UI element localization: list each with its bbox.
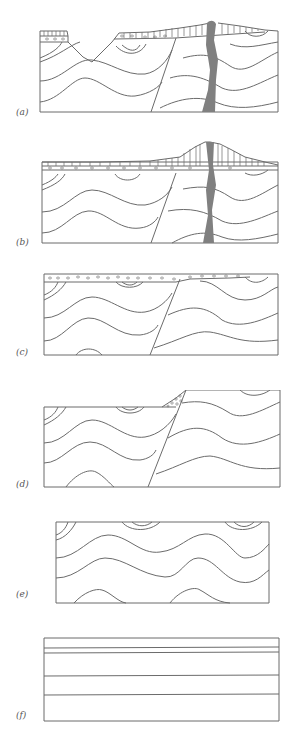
panel-a: (a) <box>0 0 296 130</box>
panel-label-c: (c) <box>16 347 28 357</box>
panel-b: (b) <box>0 135 296 265</box>
cross-section-f <box>0 625 296 744</box>
cross-section-b <box>0 135 296 265</box>
cross-section-e <box>0 510 296 625</box>
dike <box>203 142 216 243</box>
panel-label-b: (b) <box>16 237 29 247</box>
cross-section-c <box>0 265 296 395</box>
dike <box>202 21 218 112</box>
panel-e: (e) <box>0 510 296 625</box>
panel-label-a: (a) <box>16 107 28 117</box>
panel-label-f: (f) <box>16 710 26 720</box>
panel-label-e: (e) <box>16 589 28 599</box>
cross-section-a <box>0 0 296 130</box>
panel-d: (d) <box>0 390 296 515</box>
cross-section-d <box>0 390 296 515</box>
panel-f: (f) <box>0 625 296 744</box>
panel-c: (c) <box>0 265 296 395</box>
panel-label-d: (d) <box>16 479 29 489</box>
